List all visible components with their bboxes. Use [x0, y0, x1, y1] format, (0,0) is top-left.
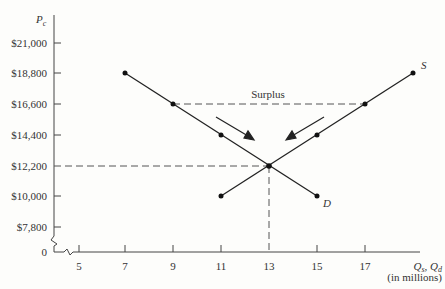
demand-label: D: [322, 197, 331, 209]
svg-text:9: 9: [170, 260, 176, 272]
equilibrium-point: [266, 163, 272, 169]
svg-text:$21,000: $21,000: [11, 37, 47, 49]
svg-text:11: 11: [216, 260, 227, 272]
svg-text:5: 5: [76, 260, 82, 272]
svg-text:$14,400: $14,400: [11, 129, 47, 141]
svg-text:$7,800: $7,800: [17, 221, 48, 233]
svg-text:$12,200: $12,200: [11, 160, 47, 172]
svg-text:$16,600: $16,600: [11, 98, 47, 110]
surplus-label: Surplus: [251, 88, 285, 100]
x-tick-labels: 5 7 9 11 13 15 17: [76, 260, 371, 272]
dashed-guides: [54, 104, 365, 252]
supply-demand-chart: $21,000 $18,800 $16,600 $14,400 $12,200 …: [0, 0, 445, 289]
svg-text:0: 0: [42, 246, 48, 258]
supply-label: S: [421, 59, 427, 71]
svg-text:7: 7: [122, 260, 128, 272]
svg-text:17: 17: [360, 260, 372, 272]
y-axis: [51, 15, 420, 255]
svg-text:$10,000: $10,000: [11, 190, 47, 202]
y-ticks: [54, 43, 61, 227]
y-axis-title: Pc: [35, 13, 47, 28]
y-tick-labels: $21,000 $18,800 $16,600 $14,400 $12,200 …: [11, 37, 47, 258]
svg-text:15: 15: [312, 260, 324, 272]
x-axis-units: (in millions): [387, 271, 442, 284]
svg-text:$18,800: $18,800: [11, 67, 47, 79]
adjustment-arrows: [216, 117, 324, 140]
svg-text:13: 13: [264, 260, 276, 272]
x-ticks: [79, 245, 365, 252]
